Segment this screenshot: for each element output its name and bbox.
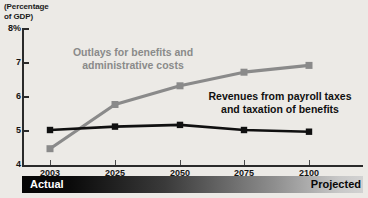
- phase-label-projected: Projected: [311, 177, 361, 192]
- phase-label-actual: Actual: [30, 177, 64, 192]
- annotation-outlays: Outlays for benefits and administrative …: [52, 46, 214, 71]
- chart-container: (Percentage of GDP) 8% 7 6 5 4 Outlays f…: [0, 0, 368, 198]
- data-point-marker: [47, 145, 54, 152]
- data-point-marker: [241, 127, 247, 133]
- data-point-marker: [47, 127, 53, 133]
- data-point-marker: [241, 69, 248, 76]
- data-point-marker: [306, 129, 312, 135]
- annotation-revenues: Revenues from payroll taxes and taxation…: [196, 90, 364, 115]
- data-point-marker: [112, 101, 119, 108]
- data-point-marker: [177, 122, 183, 128]
- x-tick-2100: [309, 160, 310, 165]
- series-plot-area: [0, 0, 368, 171]
- data-point-marker: [112, 123, 118, 129]
- data-point-marker: [306, 62, 313, 69]
- data-point-marker: [177, 82, 184, 89]
- x-tick-2025: [115, 160, 116, 165]
- x-tick-2050: [180, 160, 181, 165]
- x-tick-2003: [50, 160, 51, 165]
- x-axis-line: [22, 165, 363, 167]
- x-tick-2075: [244, 160, 245, 165]
